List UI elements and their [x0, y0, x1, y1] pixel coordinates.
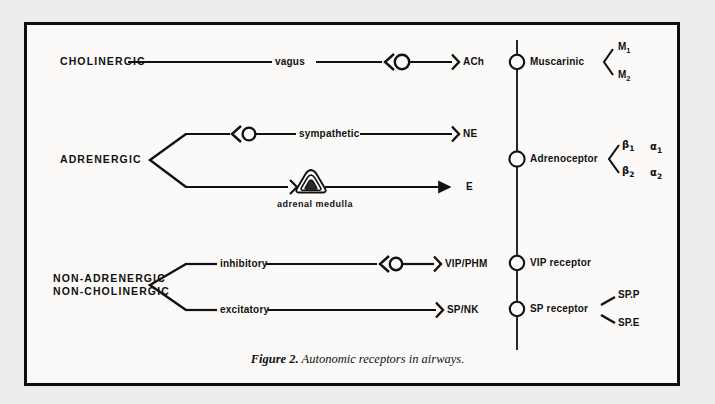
- nerve-label-excitatory: excitatory: [220, 305, 269, 315]
- subtype-label-beta2: β2: [622, 166, 634, 179]
- figure-root: CHOLINERGIC ADRENERGIC NON-ADRENERGIC NO…: [0, 0, 715, 404]
- receptor-label-sp: SP receptor: [530, 304, 588, 314]
- receptor-label-muscarinic: Muscarinic: [530, 57, 584, 67]
- subtype-label-m1: M1: [618, 42, 631, 55]
- subtype-alpha2-sub: 2: [657, 172, 662, 181]
- receptor-label-vip: VIP receptor: [530, 258, 591, 268]
- pathway-label-nanc-line1: NON-ADRENERGIC: [53, 272, 170, 285]
- pathway-label-nanc-line2: NON-CHOLINERGIC: [53, 285, 170, 298]
- figure-caption-text: Autonomic receptors in airways.: [302, 352, 465, 366]
- subtype-label-m2: M2: [618, 70, 631, 83]
- transmitter-label-sp-nk: SP/NK: [447, 305, 479, 315]
- transmitter-label-ne: NE: [463, 129, 477, 139]
- subtype-alpha2-symbol: α: [650, 167, 657, 178]
- subtype-m1-sub: 1: [626, 46, 630, 55]
- figure-caption: Figure 2. Autonomic receptors in airways…: [0, 352, 715, 367]
- nerve-label-inhibitory: inhibitory: [220, 259, 268, 269]
- nerve-label-vagus: vagus: [275, 57, 305, 67]
- subtype-beta2-sub: 2: [629, 170, 634, 179]
- subtype-alpha1-sub: 1: [657, 146, 662, 155]
- nerve-label-sympathetic: sympathetic: [299, 129, 360, 139]
- transmitter-label-e: E: [466, 182, 473, 192]
- receptor-label-adrenoceptor: Adrenoceptor: [530, 154, 598, 164]
- subtype-label-sp-p: SP.P: [618, 290, 640, 300]
- subtype-label-beta1: β1: [622, 140, 634, 153]
- subtype-label-alpha1: α1: [650, 142, 662, 155]
- subtype-m2-sub: 2: [626, 74, 630, 83]
- transmitter-label-ach: ACh: [463, 57, 484, 67]
- organ-label-adrenal-medulla: adrenal medulla: [277, 200, 353, 209]
- figure-caption-prefix: Figure 2.: [251, 352, 299, 366]
- transmitter-label-vip-phm: VIP/PHM: [445, 259, 488, 269]
- subtype-label-alpha2: α2: [650, 168, 662, 181]
- pathway-label-cholinergic: CHOLINERGIC: [60, 56, 146, 67]
- subtype-label-sp-e: SP.E: [618, 318, 640, 328]
- pathway-label-adrenergic: ADRENERGIC: [60, 154, 142, 165]
- pathway-label-nanc: NON-ADRENERGIC NON-CHOLINERGIC: [53, 272, 170, 298]
- subtype-beta1-sub: 1: [629, 144, 634, 153]
- subtype-alpha1-symbol: α: [650, 141, 657, 152]
